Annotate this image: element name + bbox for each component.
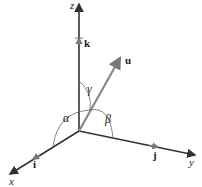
beta-label: β (104, 112, 111, 126)
gamma-label: γ (87, 82, 92, 96)
alpha-label: α (63, 111, 70, 125)
z-axis-label: z (69, 0, 75, 11)
y-axis (79, 131, 195, 155)
y-axis-label: y (188, 156, 194, 168)
j-label: j (152, 149, 157, 161)
vector-u (79, 58, 120, 131)
x-axis-label: x (8, 175, 14, 187)
i-label: i (33, 158, 36, 170)
u-label: u (125, 54, 131, 66)
x-axis (10, 131, 79, 174)
k-label: k (84, 37, 91, 49)
alpha-arc (53, 110, 90, 146)
direction-angles-diagram: z y x k j i u γ α β (0, 0, 202, 187)
